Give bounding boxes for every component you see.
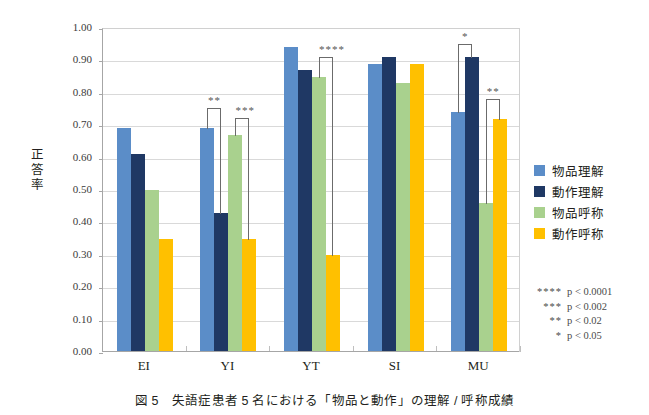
bracket-left-arm <box>207 108 208 129</box>
legend-swatch <box>534 165 545 176</box>
figure-container: 正 答 率 1.000.900.800.700.600.500.400.300.… <box>0 0 649 415</box>
bar <box>410 64 424 352</box>
bar <box>451 112 465 352</box>
bracket-left-arm <box>458 44 459 114</box>
bracket-left-arm <box>235 118 236 136</box>
x-tick-label: SI <box>355 358 435 374</box>
bar-group <box>187 29 271 352</box>
legend-item: 物品理解 <box>534 160 604 181</box>
y-tick-label: 0.80 <box>50 86 92 98</box>
bar <box>298 70 312 352</box>
bar-group <box>103 29 187 352</box>
x-tick-mark <box>520 346 521 352</box>
bar-fill <box>145 190 159 352</box>
legend-label: 動作呼称 <box>552 224 604 243</box>
y-tick-label: 0.70 <box>50 118 92 130</box>
bar-fill <box>396 83 410 352</box>
p-value-threshold: p < 0.0001 <box>567 286 612 297</box>
p-value-row: ****p < 0.0001 <box>528 286 646 301</box>
bar <box>214 213 228 352</box>
p-value-row: ***p < 0.002 <box>528 301 646 316</box>
significance-stars: *** <box>235 105 249 116</box>
legend-swatch <box>534 228 545 239</box>
bar-fill <box>298 70 312 352</box>
y-tick-label: 0.40 <box>50 215 92 227</box>
p-value-threshold: p < 0.05 <box>567 330 602 341</box>
bar <box>326 255 340 352</box>
legend-label: 物品呼称 <box>552 203 604 222</box>
x-tick-label: YI <box>187 358 267 374</box>
bar-fill <box>368 64 382 352</box>
bar <box>145 190 159 352</box>
legend-swatch <box>534 186 545 197</box>
y-tick-label: 0.60 <box>50 151 92 163</box>
x-tick-label: YT <box>271 358 351 374</box>
bracket-left-arm <box>486 99 487 204</box>
y-tick-label: 0.50 <box>50 183 92 195</box>
y-tick-label: 1.00 <box>50 21 92 33</box>
bar-fill <box>451 112 465 352</box>
bar <box>131 154 145 352</box>
figure-caption: 図 5 失語症患者 5 名における「物品と動作」の理解 / 呼称成績 <box>0 390 649 409</box>
bracket-top <box>207 108 221 109</box>
bar-fill <box>284 47 298 352</box>
bar-fill <box>312 77 326 352</box>
bracket-right-arm <box>471 44 472 59</box>
legend-item: 動作呼称 <box>534 223 604 244</box>
bar <box>396 83 410 352</box>
bar-fill <box>326 255 340 352</box>
p-value-stars: * <box>528 330 567 341</box>
bar-group <box>437 29 521 352</box>
significance-stars: **** <box>319 44 333 55</box>
y-tick-label: 0.30 <box>50 248 92 260</box>
x-tick-label: EI <box>104 358 184 374</box>
legend: 物品理解動作理解物品呼称動作呼称 <box>534 160 604 244</box>
bar-fill <box>228 135 242 352</box>
y-axis-title-char-3: 率 <box>26 178 48 193</box>
bar <box>312 77 326 352</box>
bar-fill <box>242 239 256 352</box>
bar <box>479 203 493 352</box>
bar <box>200 128 214 352</box>
bar-fill <box>465 57 479 352</box>
bar-group <box>354 29 438 352</box>
significance-stars: * <box>458 31 472 42</box>
y-tick-label: 0.20 <box>50 280 92 292</box>
bracket-top <box>319 57 333 58</box>
bar-fill <box>493 119 507 352</box>
bar-fill <box>200 128 214 352</box>
bracket-right-arm <box>332 57 333 256</box>
bar <box>382 57 396 352</box>
y-axis-title-char-2: 答 <box>26 163 48 178</box>
y-tick-label: 0.90 <box>50 53 92 65</box>
bar <box>368 64 382 352</box>
p-value-stars: ** <box>528 315 567 326</box>
bar <box>117 128 131 352</box>
legend-label: 物品理解 <box>552 161 604 180</box>
bar-fill <box>214 213 228 352</box>
bar-fill <box>382 57 396 352</box>
y-tick-label: 0.10 <box>50 313 92 325</box>
p-value-row: *p < 0.05 <box>528 330 646 345</box>
bar <box>228 135 242 352</box>
legend-swatch <box>534 207 545 218</box>
bar <box>465 57 479 352</box>
y-tick-label: 0.00 <box>50 345 92 357</box>
legend-item: 物品呼称 <box>534 202 604 223</box>
p-value-stars: *** <box>528 301 567 312</box>
bar-fill <box>131 154 145 352</box>
bracket-top <box>235 118 249 119</box>
bracket-top <box>458 44 472 45</box>
y-axis-title-char-1: 正 <box>26 148 48 163</box>
bar-fill <box>410 64 424 352</box>
bar <box>242 239 256 352</box>
bracket-top <box>486 99 500 100</box>
p-value-key: ****p < 0.0001***p < 0.002**p < 0.02*p <… <box>528 286 646 344</box>
significance-stars: ** <box>207 95 221 106</box>
significance-stars: ** <box>486 86 500 97</box>
p-value-threshold: p < 0.002 <box>567 301 607 312</box>
bar <box>159 239 173 352</box>
y-tick-mark <box>99 353 103 354</box>
bracket-right-arm <box>220 108 221 213</box>
bracket-right-arm <box>248 118 249 240</box>
